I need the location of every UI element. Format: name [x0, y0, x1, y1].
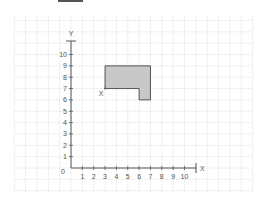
y-tick-label: 2: [63, 142, 67, 149]
x-tick-label: 3: [103, 173, 107, 180]
x-tick-label: 7: [148, 173, 152, 180]
y-axis-label: Y: [69, 30, 74, 37]
y-tick-label: 1: [63, 153, 67, 160]
point-label: X: [99, 90, 104, 97]
x-tick-label: 6: [137, 173, 141, 180]
axes: [66, 41, 196, 173]
x-tick-label: 9: [171, 173, 175, 180]
y-tick-label: 5: [63, 108, 67, 115]
x-tick-label: 8: [160, 173, 164, 180]
x-tick-label: 1: [80, 173, 84, 180]
origin-label: 0: [61, 168, 65, 175]
x-tick-label: 2: [92, 173, 96, 180]
y-tick-label: 10: [59, 51, 67, 58]
coordinate-grid: 12345678910123456789100XYX: [0, 0, 268, 201]
point-marker: [104, 88, 106, 90]
y-tick-label: 6: [63, 96, 67, 103]
axis-labels: 12345678910123456789100XYX: [59, 30, 205, 180]
y-tick-label: 7: [63, 85, 67, 92]
y-tick-label: 9: [63, 62, 67, 69]
x-tick-label: 4: [114, 173, 118, 180]
y-tick-label: 4: [63, 119, 67, 126]
y-tick-label: 3: [63, 130, 67, 137]
grid-lines: [14, 16, 252, 192]
y-tick-label: 8: [63, 74, 67, 81]
x-tick-label: 10: [181, 173, 189, 180]
x-axis-label: X: [200, 165, 205, 172]
x-tick-label: 5: [126, 173, 130, 180]
